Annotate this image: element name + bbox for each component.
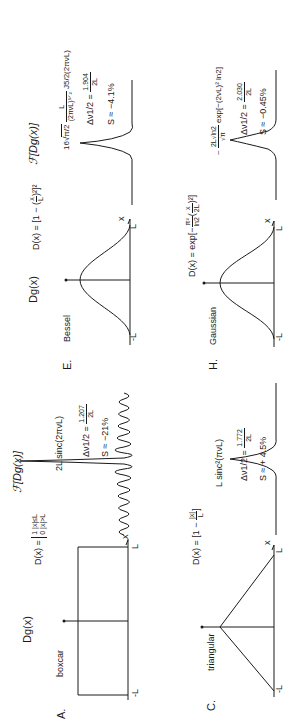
figure-canvas: Dg(x) D(x) = 1 |x|≤L 0 |x|>L boxcar A. -… [0,0,300,725]
gaussian-transform-plot [0,0,300,725]
